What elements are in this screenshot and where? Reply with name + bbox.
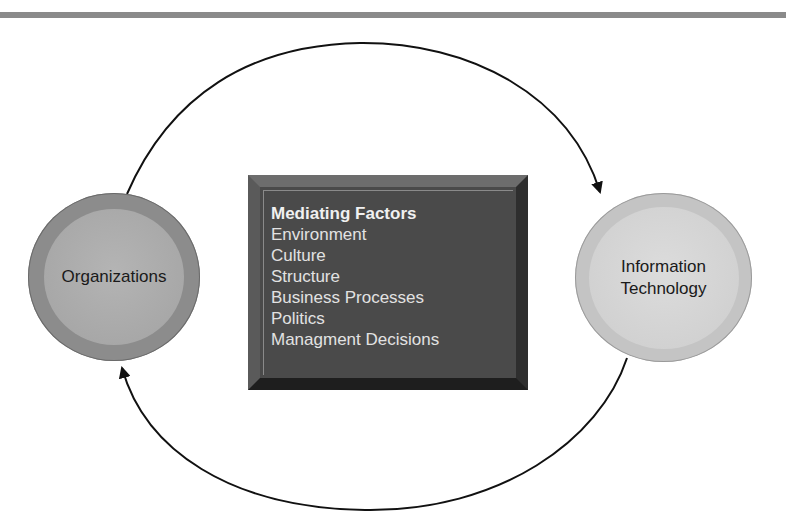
mediating-factors-frame: Mediating Factors Environment Culture St… xyxy=(263,190,513,375)
factor-management-decisions: Managment Decisions xyxy=(271,329,513,350)
factor-structure: Structure xyxy=(271,266,513,287)
information-technology-label-line2: Technology xyxy=(620,278,706,300)
factor-culture: Culture xyxy=(271,245,513,266)
information-technology-label-line1: Information xyxy=(621,256,706,278)
mediating-factors-title: Mediating Factors xyxy=(271,203,513,224)
information-technology-node: Information Technology xyxy=(575,193,752,362)
factor-business-processes: Business Processes xyxy=(271,287,513,308)
arrow-org-to-it xyxy=(127,43,600,194)
factor-politics: Politics xyxy=(271,308,513,329)
organizations-node-inner: Organizations xyxy=(44,209,184,345)
organizations-node: Organizations xyxy=(28,193,200,361)
organizations-label: Organizations xyxy=(62,266,167,288)
information-technology-node-inner: Information Technology xyxy=(589,207,739,349)
mediating-factors-box: Mediating Factors Environment Culture St… xyxy=(248,175,528,390)
factor-environment: Environment xyxy=(271,224,513,245)
